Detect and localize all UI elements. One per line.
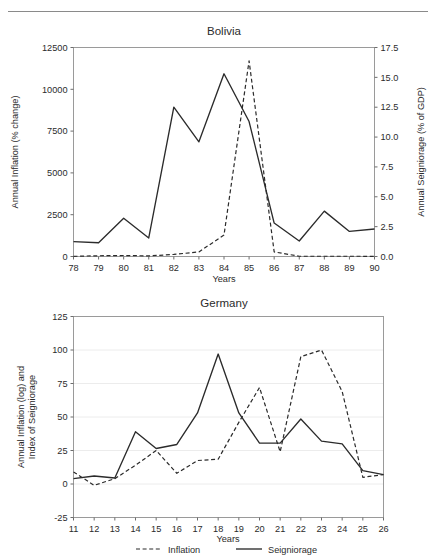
ytick-label-0: 0 — [62, 479, 67, 489]
bolivia-yaxis-left-label: Annual Inflation (% change) — [10, 96, 20, 209]
germany-legend: InflationSeigniorage — [136, 545, 317, 555]
bolivia-yaxis-left-ticks: 02500500075001000012500 — [42, 43, 74, 262]
ytick-label--25: -25 — [54, 513, 67, 523]
ytick-label-125: 125 — [52, 312, 67, 322]
ytick-right-label-0.0: 0.0 — [381, 252, 394, 262]
bolivia-plot-frame — [74, 48, 375, 257]
xtick-label-88: 88 — [319, 263, 329, 273]
xtick-label-24: 24 — [337, 524, 347, 534]
xtick-label-84: 84 — [219, 263, 229, 273]
legend-label-seigniorage: Seigniorage — [268, 545, 317, 555]
ytick-label-2500: 2500 — [47, 210, 67, 220]
ytick-label-75: 75 — [57, 379, 67, 389]
xtick-label-25: 25 — [358, 524, 368, 534]
xtick-label-22: 22 — [296, 524, 306, 534]
xtick-label-23: 23 — [316, 524, 326, 534]
xtick-label-82: 82 — [169, 263, 179, 273]
chart-title-germany: Germany — [200, 297, 248, 309]
xtick-label-19: 19 — [234, 524, 244, 534]
ytick-right-label-7.5: 7.5 — [381, 162, 394, 172]
series-line-seigniorage — [74, 354, 384, 479]
xtick-label-78: 78 — [68, 263, 78, 273]
legend-label-inflation: Inflation — [168, 545, 200, 555]
ytick-right-label-17.5: 17.5 — [381, 43, 399, 53]
xtick-label-14: 14 — [130, 524, 140, 534]
ytick-label-0: 0 — [62, 252, 67, 262]
xtick-label-83: 83 — [194, 263, 204, 273]
xtick-label-79: 79 — [93, 263, 103, 273]
ytick-right-label-2.5: 2.5 — [381, 222, 394, 232]
ytick-right-label-5.0: 5.0 — [381, 192, 394, 202]
ytick-label-100: 100 — [52, 345, 67, 355]
series-line-inflation — [74, 61, 375, 256]
chart-germany: Germany -250255075100125 111213141516171… — [0, 290, 436, 559]
xtick-label-17: 17 — [192, 524, 202, 534]
xtick-label-15: 15 — [151, 524, 161, 534]
bolivia-xaxis-label: Years — [212, 274, 236, 284]
xtick-label-16: 16 — [172, 524, 182, 534]
bolivia-svg: Bolivia 02500500075001000012500 0.02.55.… — [0, 14, 436, 290]
ytick-label-12500: 12500 — [42, 43, 68, 53]
bolivia-yaxis-right-ticks: 0.02.55.07.510.012.515.017.5 — [375, 43, 399, 262]
top-divider-rule — [8, 11, 428, 12]
germany-gridlines — [74, 350, 384, 484]
xtick-label-89: 89 — [344, 263, 354, 273]
xtick-label-13: 13 — [110, 524, 120, 534]
ytick-right-label-15.0: 15.0 — [381, 73, 399, 83]
xtick-label-20: 20 — [254, 524, 264, 534]
germany-yaxis-ticks: -250255075100125 — [52, 312, 73, 523]
xtick-label-85: 85 — [244, 263, 254, 273]
ytick-label-50: 50 — [57, 412, 67, 422]
germany-yaxis-label-line1: Annual Inflation (log) and — [16, 366, 26, 468]
germany-yaxis-label-line2: Index of Seigniorage — [27, 375, 37, 459]
chart-title-bolivia: Bolivia — [207, 25, 241, 37]
germany-xaxis-label: Years — [216, 534, 240, 544]
xtick-label-90: 90 — [369, 263, 379, 273]
xtick-label-11: 11 — [69, 524, 79, 534]
ytick-right-label-12.5: 12.5 — [381, 102, 399, 112]
germany-series-group — [74, 350, 384, 485]
bolivia-series-group — [74, 61, 375, 256]
chart-bolivia: Bolivia 02500500075001000012500 0.02.55.… — [0, 14, 436, 290]
ytick-right-label-10.0: 10.0 — [381, 132, 399, 142]
germany-xaxis-ticks: 11121314151617181920212223242526 — [69, 518, 389, 534]
xtick-label-80: 80 — [119, 263, 129, 273]
xtick-label-81: 81 — [144, 263, 154, 273]
xtick-label-26: 26 — [378, 524, 388, 534]
germany-svg: Germany -250255075100125 111213141516171… — [0, 290, 436, 559]
ytick-label-7500: 7500 — [47, 126, 67, 136]
ytick-label-25: 25 — [57, 446, 67, 456]
bolivia-yaxis-right-label: Annual Seigniorage (% of GDP) — [416, 87, 426, 217]
ytick-label-10000: 10000 — [42, 85, 68, 95]
xtick-label-86: 86 — [269, 263, 279, 273]
bolivia-xaxis-ticks: 78798081828384858687888990 — [68, 257, 379, 273]
figure-page: Bolivia 02500500075001000012500 0.02.55.… — [0, 0, 436, 559]
ytick-label-5000: 5000 — [47, 168, 67, 178]
series-line-seigniorage — [74, 74, 375, 243]
xtick-label-21: 21 — [275, 524, 285, 534]
xtick-label-12: 12 — [89, 524, 99, 534]
xtick-label-18: 18 — [213, 524, 223, 534]
xtick-label-87: 87 — [294, 263, 304, 273]
